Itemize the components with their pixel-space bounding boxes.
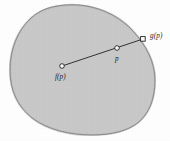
figure-container: f(p) p g(p): [0, 0, 170, 141]
figure-canvas: [0, 0, 170, 141]
point-label-fp: f(p): [55, 74, 66, 81]
point-marker-gp: [141, 37, 146, 42]
point-marker-p: [115, 46, 120, 51]
point-label-gp: g(p): [150, 33, 162, 40]
point-label-p: p: [115, 56, 119, 63]
shaded-region: [10, 5, 155, 135]
point-marker-fp: [60, 64, 65, 69]
